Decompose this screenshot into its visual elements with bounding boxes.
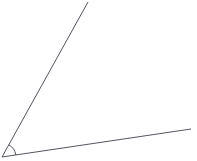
upper-ray — [2, 2, 88, 157]
angle-figure-svg — [0, 0, 197, 161]
lower-ray — [2, 129, 191, 157]
angle-figure-canvas: Angle formed by two rays — [0, 0, 197, 161]
angle-arc-mark — [9, 145, 16, 155]
